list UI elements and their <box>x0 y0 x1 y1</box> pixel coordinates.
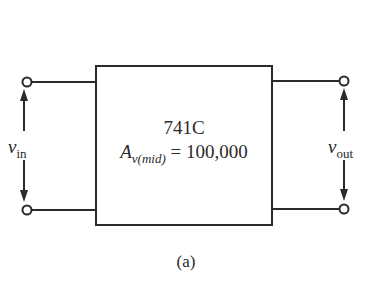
gain-equals: = <box>166 141 186 162</box>
gain-label: Av(mid) = 100,000 <box>96 142 272 161</box>
output-top-terminal <box>340 77 349 86</box>
output-up-arrow-icon <box>340 88 348 131</box>
output-down-arrow-icon <box>340 160 348 201</box>
gain-value: 100,000 <box>186 141 248 162</box>
output-bottom-terminal <box>340 205 349 214</box>
output-voltage-label: vout <box>328 137 353 156</box>
input-voltage-subscript: in <box>16 146 26 161</box>
gain-subscript-text: v(mid) <box>132 151 166 166</box>
gain-subscript: v(mid) <box>132 151 166 166</box>
input-top-terminal <box>23 78 32 87</box>
part-name-label: 741C <box>96 118 272 137</box>
input-up-arrow-icon <box>20 89 28 131</box>
figure-caption: (a) <box>0 253 372 270</box>
input-voltage-label: vin <box>8 137 27 156</box>
input-bottom-terminal <box>23 206 32 215</box>
input-down-arrow-icon <box>20 160 28 202</box>
gain-symbol: A <box>120 141 132 162</box>
output-voltage-subscript: out <box>336 146 353 161</box>
